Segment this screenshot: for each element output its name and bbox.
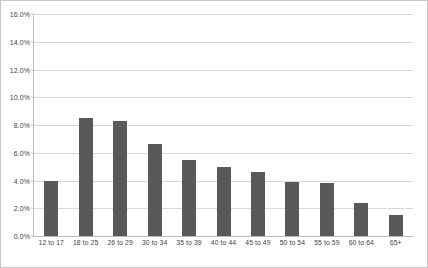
bar [354, 203, 368, 236]
x-axis-tick-label: 18 to 25 [73, 239, 98, 246]
y-axis-tick-label: 16.0% [10, 11, 30, 18]
bar [217, 167, 231, 236]
bar [148, 144, 162, 236]
x-axis-tick-label: 55 to 59 [314, 239, 339, 246]
bar [285, 182, 299, 236]
bar [113, 121, 127, 236]
bar [44, 181, 58, 237]
x-axis-tick-label: 45 to 49 [245, 239, 270, 246]
x-axis-tick-label: 30 to 34 [142, 239, 167, 246]
x-axis-tick-label: 50 to 54 [280, 239, 305, 246]
bar-chart-figure: 0.0%2.0%4.0%6.0%8.0%10.0%12.0%14.0%16.0%… [0, 0, 428, 268]
x-axis-tick-label: 40 to 44 [211, 239, 236, 246]
bar [320, 183, 334, 236]
x-axis-tick-label: 60 to 64 [349, 239, 374, 246]
y-axis-tick-label: 8.0% [14, 122, 30, 129]
gridline [34, 236, 413, 237]
y-axis-tick-label: 14.0% [10, 38, 30, 45]
x-axis-tick-label: 35 to 39 [176, 239, 201, 246]
x-axis-tick-label: 12 to 17 [39, 239, 64, 246]
bar-series [34, 14, 413, 236]
y-axis-tick-labels: 0.0%2.0%4.0%6.0%8.0%10.0%12.0%14.0%16.0% [1, 1, 34, 249]
y-axis-tick-label: 0.0% [14, 233, 30, 240]
bar [251, 172, 265, 236]
bar [79, 118, 93, 236]
y-axis-tick-label: 12.0% [10, 66, 30, 73]
y-axis-tick-label: 2.0% [14, 205, 30, 212]
y-axis-tick-label: 10.0% [10, 94, 30, 101]
y-axis-tick-label: 6.0% [14, 149, 30, 156]
y-axis-tick-label: 4.0% [14, 177, 30, 184]
x-axis-tick-label: 65+ [390, 239, 402, 246]
bar [389, 215, 403, 236]
x-axis-tick-labels: 12 to 1718 to 2526 to 2930 to 3435 to 39… [34, 239, 413, 255]
x-axis-tick-label: 26 to 29 [107, 239, 132, 246]
bar [182, 160, 196, 236]
